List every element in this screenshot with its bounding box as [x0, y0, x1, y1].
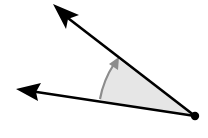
vertex-point	[191, 112, 199, 120]
angle-diagram	[0, 0, 208, 138]
angle-figure	[0, 0, 208, 138]
angle-shaded-region	[100, 59, 195, 116]
upper-ray-arrowhead-icon	[53, 4, 79, 29]
